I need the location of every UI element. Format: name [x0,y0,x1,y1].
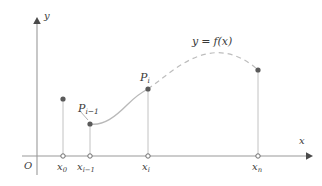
axis-marker-xi [146,154,150,158]
tick-label-xi-minus-1: xi−1 [77,162,95,172]
tick-label-x0-main: x [57,161,63,172]
curve-point-p-i [145,86,150,91]
y-axis-label: y [44,11,50,21]
tick-label-xi-minus-1-main: x [77,161,83,172]
tick-label-xn-main: x [252,161,258,172]
axis-marker-xi-minus-1 [88,154,92,158]
curve-point-p-i-minus-1 [87,121,92,126]
y-axis-arrowhead [33,17,41,24]
tick-label-xi-main: x [142,161,148,172]
tick-label-xn-sub: n [258,166,262,174]
point-label-p-i-minus-1-sub: i−1 [85,107,98,116]
calculus-partition-figure: y x O x0 xi−1 xi xn Pi−1 Pi y=f(x) [0,0,322,186]
tick-label-xi: xi [142,162,150,172]
curve-dashed-segment [148,53,258,89]
origin-label: O [24,161,32,171]
x-axis-arrowhead [306,152,313,160]
axes-group [22,17,313,175]
curve-point-markers [60,67,260,126]
point-label-p-i-sub: i [147,76,149,85]
curve-equation-label: y=f(x) [192,36,232,47]
tick-label-xi-sub: i [148,166,150,174]
figure-canvas [0,0,322,186]
point-label-p-i-minus-1: Pi−1 [78,103,99,114]
tick-label-x0-sub: 0 [63,166,67,174]
curve-equation-argument: (x) [218,35,233,48]
curve-equation-equals: = [198,35,213,48]
axis-marker-xn [256,154,260,158]
tick-label-x0: x0 [57,162,67,172]
point-label-p-i: Pi [140,72,150,83]
tick-label-xn: xn [252,162,262,172]
curve-point-x0 [60,96,65,101]
axis-marker-x0 [61,154,65,158]
curve-point-xn [255,67,260,72]
x-axis-label: x [299,136,305,146]
tick-label-xi-minus-1-sub: i−1 [83,166,95,174]
